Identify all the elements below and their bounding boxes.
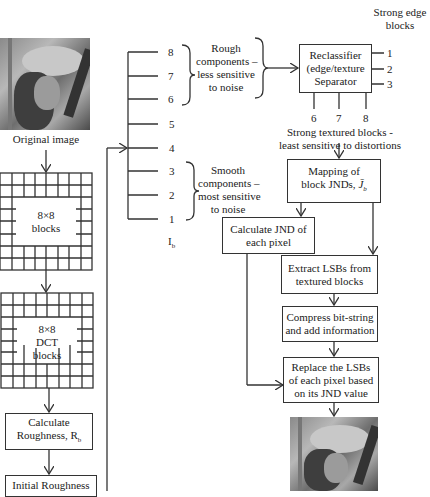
blocks-label-line1: 8×8 <box>16 209 76 222</box>
smooth-line1: Smooth <box>198 164 258 177</box>
level-5: 5 <box>169 118 175 130</box>
calculate-roughness-box: Calculate Roughness, Rb <box>5 413 93 450</box>
compress-box: Compress bit-string and add information <box>282 306 378 342</box>
extract-line2: textured blocks <box>296 275 364 288</box>
smooth-line4: to noise <box>198 203 258 216</box>
reclassifier-out-8: 8 <box>363 112 369 124</box>
compress-line1: Compress bit-string <box>286 311 373 324</box>
dct-label-line3: blocks <box>17 349 77 362</box>
original-image-label: Original image <box>0 133 92 146</box>
replace-line1: Replace the LSBs <box>292 361 371 374</box>
replace-lsbs-box: Replace the LSBs of each pixel based on … <box>283 357 379 403</box>
rough-line4: to noise <box>196 81 256 94</box>
level-6: 6 <box>168 93 174 105</box>
replace-line3: on its JND value <box>294 387 368 400</box>
dct-label-line2: DCT <box>17 336 77 349</box>
strong-textured-label: Strong textured blocks - least sensitive… <box>270 126 410 152</box>
smooth-line3: most sensitive <box>198 190 258 203</box>
original-image <box>0 38 90 130</box>
dct-label-line1: 8×8 <box>17 323 77 336</box>
initial-roughness-box: Initial Roughness <box>5 475 97 497</box>
blocks-label-line2: blocks <box>16 222 76 235</box>
reclassifier-out-2: 2 <box>387 63 393 75</box>
level-3: 3 <box>169 165 175 177</box>
extract-lsbs-box: Extract LSBs from textured blocks <box>281 255 378 294</box>
axis-label-ib: Ib <box>168 235 175 252</box>
smooth-components-label: Smooth components – most sensitive to no… <box>198 164 258 216</box>
roughness-line1: Calculate <box>28 416 70 429</box>
strong-textured-line2: least sensitive to distortions <box>270 139 410 152</box>
level-1: 1 <box>169 213 175 225</box>
strong-textured-line1: Strong textured blocks - <box>270 126 410 139</box>
rough-line1: Rough <box>196 42 256 55</box>
strong-edge-line2: blocks <box>370 19 430 32</box>
reclassifier-out-6: 6 <box>311 112 317 124</box>
reclassifier-line1: Reclassifier <box>310 49 362 62</box>
smooth-line2: components – <box>198 177 258 190</box>
level-7: 7 <box>168 70 174 82</box>
mapping-box: Mapping of block JNDs, J̄b <box>287 159 381 203</box>
mapping-line1: Mapping of <box>308 165 360 178</box>
level-2: 2 <box>169 189 175 201</box>
replace-line2: of each pixel based <box>289 374 374 387</box>
mapping-line2: block JNDs, J̄b <box>301 178 367 196</box>
reclassifier-out-7: 7 <box>336 112 342 124</box>
blocks-label: 8×8 blocks <box>16 209 76 235</box>
dct-blocks-label: 8×8 DCT blocks <box>17 323 77 362</box>
calc-jnd-line1: Calculate JND of <box>230 223 306 236</box>
initial-roughness-label: Initial Roughness <box>12 479 89 492</box>
reclassifier-out-1: 1 <box>387 47 393 59</box>
rough-components-label: Rough components – less sensitive to noi… <box>196 42 256 94</box>
strong-edge-label: Strong edge blocks <box>370 6 430 32</box>
reclassifier-box: Reclassifier (edge/texture Separator <box>299 44 372 93</box>
output-image <box>290 417 378 491</box>
level-8: 8 <box>168 46 174 58</box>
roughness-line2: Roughness, Rb <box>17 429 82 447</box>
rough-line3: less sensitive <box>196 68 256 81</box>
reclassifier-line3: Separator <box>314 75 356 88</box>
calculate-jnd-box: Calculate JND of each pixel <box>222 217 315 254</box>
level-4: 4 <box>169 142 175 154</box>
compress-line2: and add information <box>285 324 374 337</box>
strong-edge-line1: Strong edge <box>370 6 430 19</box>
reclassifier-line2: (edge/texture <box>306 62 364 75</box>
rough-line2: components – <box>196 55 256 68</box>
reclassifier-out-3: 3 <box>387 78 393 90</box>
extract-line1: Extract LSBs from <box>288 262 371 275</box>
calc-jnd-line2: each pixel <box>246 236 291 249</box>
